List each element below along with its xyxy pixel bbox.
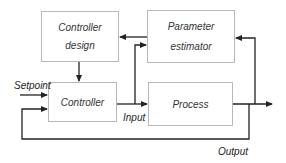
controller-design-label-line1: Controller bbox=[58, 22, 101, 33]
controller-block: Controller bbox=[48, 82, 117, 122]
input-label: Input bbox=[123, 112, 145, 123]
process-label: Process bbox=[172, 99, 208, 110]
controller-label: Controller bbox=[61, 97, 104, 108]
setpoint-label: Setpoint bbox=[14, 80, 51, 91]
parameter-estimator-block: Parameter estimator bbox=[147, 10, 235, 63]
parameter-estimator-label-line1: Parameter bbox=[168, 21, 215, 32]
parameter-estimator-label-line2: estimator bbox=[170, 41, 211, 52]
controller-design-block: Controller design bbox=[41, 11, 119, 62]
adaptive-control-diagram: Controller design Parameter estimator Co… bbox=[0, 0, 286, 163]
process-block: Process bbox=[148, 82, 233, 126]
output-label: Output bbox=[218, 146, 248, 157]
controller-design-label-line2: design bbox=[65, 40, 94, 51]
